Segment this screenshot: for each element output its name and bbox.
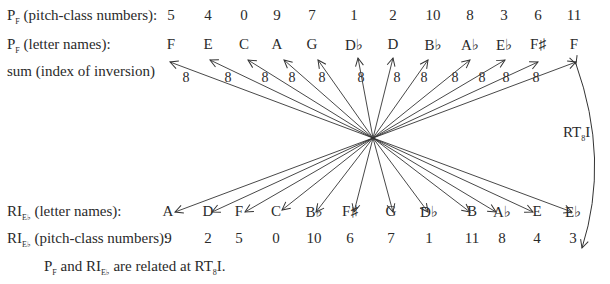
arrow-line [248,60,373,138]
caption: PF and RIE♭ are related at RT8I. [44,258,226,275]
arrow-line [170,62,373,138]
cap-ri-sub: E♭ [101,268,110,277]
arrow-line [373,138,393,212]
cap-p-sub: F [52,268,56,277]
arrow-line [175,138,373,212]
arrow-line [373,138,572,212]
rt-main: RT [563,124,581,140]
arrow-line [245,138,373,212]
arrow-line [373,60,470,138]
arrow-line [373,138,428,212]
arrow-line [373,60,505,138]
arrow-line [373,62,538,138]
arrow-line [373,60,428,138]
arrow-line [373,138,470,212]
cap-rt-sub: 8 [213,268,217,277]
rt-arc [576,64,595,248]
arrow-line [358,58,373,138]
arrow-line [210,60,373,138]
rt-sub: 8 [581,134,585,143]
arrow-line [354,138,373,212]
arrow-line [284,60,373,138]
arrow-line [373,138,533,212]
arrow-line [373,58,393,138]
cap-rest: are related at RT [110,258,213,274]
cap-end: I. [217,258,226,274]
arrow-line [212,138,373,212]
arrow-line [318,60,373,138]
arrow-line [373,62,576,138]
arrow-line [373,138,496,212]
cap-mid: and RI [57,258,101,274]
inversion-arrows [0,0,610,284]
rt-rest: I [585,124,590,140]
rt8i-label: RT8I [563,124,590,141]
